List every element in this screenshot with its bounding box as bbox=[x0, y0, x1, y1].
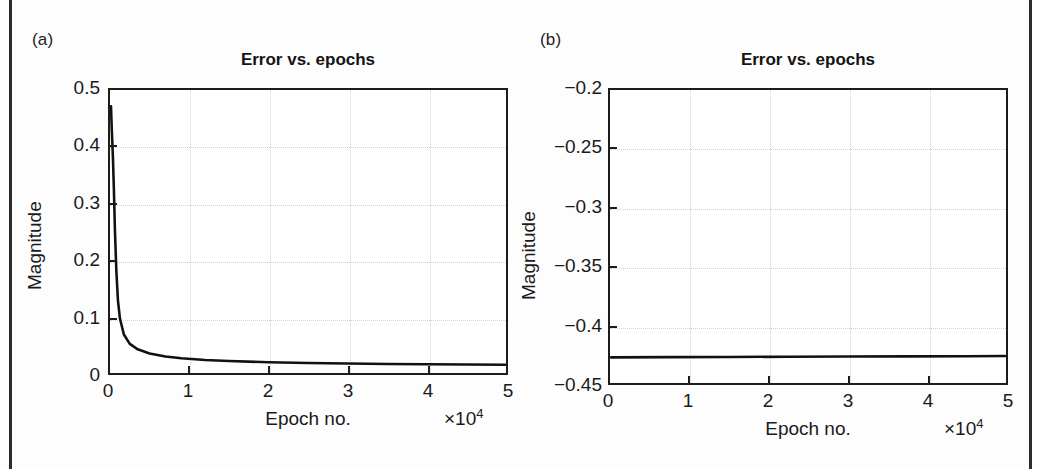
panel-b-tick-x-4 bbox=[928, 376, 930, 383]
panel-a-tick-x-3 bbox=[348, 366, 350, 373]
panel-a-tick-x-2 bbox=[268, 366, 270, 373]
panel-a-plot-area bbox=[108, 88, 508, 375]
panel-b-x-exponent: ×104 bbox=[944, 418, 983, 440]
panel-a-x-exponent: ×104 bbox=[444, 408, 483, 430]
panel-b-axis-title-x: Epoch no. bbox=[708, 418, 908, 440]
panel-a-axis-title-x: Epoch no. bbox=[208, 408, 408, 430]
panel-b-label: (b) bbox=[540, 30, 561, 50]
panel-a-xlabel-2: 2 bbox=[263, 380, 274, 402]
panel-b-xlabel-0: 0 bbox=[603, 390, 614, 412]
panel-a-label: (a) bbox=[32, 30, 53, 50]
panel-a-ylabel-3: 0.2 bbox=[44, 249, 100, 271]
panel-a-ylabel-5: 0 bbox=[44, 364, 100, 386]
panel-b-x-exponent-power: 4 bbox=[976, 416, 983, 431]
panel-a-ylabel-1: 0.4 bbox=[44, 134, 100, 156]
panel-b-x-exponent-base: ×10 bbox=[944, 418, 976, 439]
panel-b-tick-x-2 bbox=[768, 376, 770, 383]
panel-a-tick-x-4 bbox=[428, 366, 430, 373]
panel-b-tick-y--0.3 bbox=[610, 207, 617, 209]
panel-b-tick-y--0.25 bbox=[610, 147, 617, 149]
figure-root: (a) Error vs. epochs 0.5 0.4 bbox=[0, 0, 1041, 469]
panel-b-error-curve bbox=[610, 90, 1006, 383]
panel-a-ylabel-4: 0.1 bbox=[44, 307, 100, 329]
panel-a-tick-x-1 bbox=[188, 366, 190, 373]
panel-a-tick-y-0.2 bbox=[110, 260, 117, 262]
panel-b-xlabel-4: 4 bbox=[923, 390, 934, 412]
panel-a-title: Error vs. epochs bbox=[108, 50, 508, 70]
panel-a-xlabel-5: 5 bbox=[503, 380, 514, 402]
panel-b-xlabel-3: 3 bbox=[843, 390, 854, 412]
panel-b-ylabel-5: −0.45 bbox=[528, 374, 602, 396]
panel-b-ylabel-0: −0.2 bbox=[528, 77, 602, 99]
panel-a-ylabel-2: 0.3 bbox=[44, 192, 100, 214]
panel-a-tick-y-0.1 bbox=[110, 318, 117, 320]
panel-a-xlabel-1: 1 bbox=[183, 380, 194, 402]
panel-b-xlabel-5: 5 bbox=[1003, 390, 1014, 412]
panel-b-title: Error vs. epochs bbox=[608, 50, 1008, 70]
panel-a-xlabel-4: 4 bbox=[423, 380, 434, 402]
panel-a-xlabel-0: 0 bbox=[103, 380, 114, 402]
panel-b-xlabel-2: 2 bbox=[763, 390, 774, 412]
panel-a-ylabel-0: 0.5 bbox=[44, 77, 100, 99]
panel-a-tick-y-0.3 bbox=[110, 203, 117, 205]
panel-a-axis-title-y: Magnitude bbox=[24, 201, 46, 290]
panel-b-tick-y--0.35 bbox=[610, 266, 617, 268]
panel-b-tick-x-3 bbox=[848, 376, 850, 383]
panel-b-plot-area bbox=[608, 88, 1008, 385]
panel-b-tick-x-1 bbox=[688, 376, 690, 383]
panel-a-x-exponent-power: 4 bbox=[476, 406, 483, 421]
panel-a-error-curve bbox=[110, 90, 506, 373]
panel-a-xlabel-3: 3 bbox=[343, 380, 354, 402]
panel-a: (a) Error vs. epochs 0.5 0.4 bbox=[0, 0, 520, 469]
panel-b-ylabel-1: −0.25 bbox=[528, 136, 602, 158]
panel-b-ylabel-4: −0.4 bbox=[528, 315, 602, 337]
panel-b-axis-title-y: Magnitude bbox=[518, 211, 540, 300]
panel-b-xlabel-1: 1 bbox=[683, 390, 694, 412]
panel-b-tick-y--0.4 bbox=[610, 326, 617, 328]
panel-b: (b) Error vs. epochs −0.2 −0.25 bbox=[520, 0, 1040, 469]
panel-a-tick-y-0.4 bbox=[110, 145, 117, 147]
panel-a-x-exponent-base: ×10 bbox=[444, 408, 476, 429]
